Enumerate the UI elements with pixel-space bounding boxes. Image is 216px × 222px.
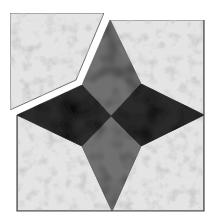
quilt-block-illustration	[0, 0, 216, 222]
